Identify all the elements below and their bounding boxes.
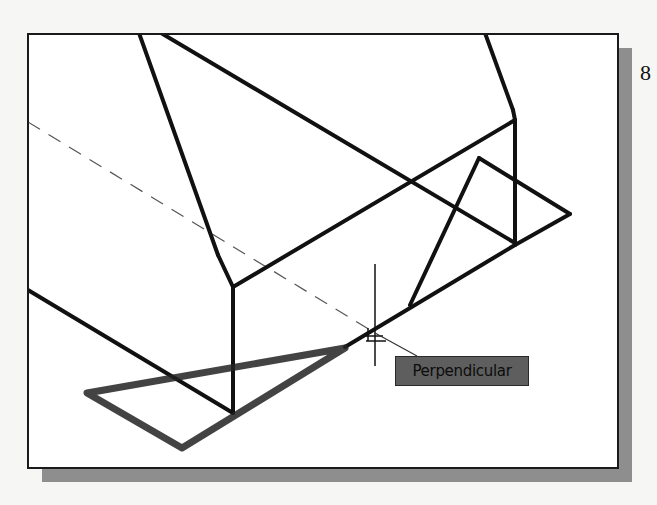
tooltip-leader	[375, 333, 417, 356]
drawing-viewport[interactable]	[27, 33, 619, 469]
page-number: 8	[640, 60, 651, 86]
frame-shadow-right	[617, 48, 632, 482]
highlighted-triangle	[87, 348, 345, 448]
dashed-center-line	[28, 122, 375, 333]
snap-tooltip-perpendicular: Perpendicular	[395, 356, 529, 386]
frame-shadow-bottom	[42, 467, 632, 482]
crosshair-cursor-icon	[366, 264, 386, 366]
wireframe-drawing	[27, 33, 619, 469]
